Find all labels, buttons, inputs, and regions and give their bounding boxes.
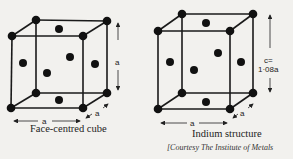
fcc-height-label: a — [115, 58, 120, 67]
corner-atom — [226, 27, 235, 36]
cube-edge — [158, 14, 182, 31]
indium-depth-label: a — [240, 109, 245, 118]
fcc-cube — [7, 16, 112, 113]
face-center-atom — [66, 53, 74, 61]
corner-atom — [32, 89, 41, 98]
cube-edge — [11, 36, 12, 108]
corner-atom — [103, 89, 112, 98]
face-center-atom — [19, 59, 27, 67]
corner-atom — [154, 27, 163, 36]
corner-atom — [249, 89, 258, 98]
cube-edge — [11, 93, 36, 108]
indium-height-label-c: c= — [264, 56, 273, 65]
indium-height-label-value: 1·08a — [258, 65, 279, 74]
face-center-atom — [55, 96, 63, 104]
corner-atom — [7, 104, 16, 113]
cube-edge — [12, 20, 36, 36]
fcc-dimensions — [14, 23, 118, 121]
corner-atom — [178, 89, 187, 98]
corner-atom — [178, 10, 187, 19]
indium-cube — [154, 10, 258, 114]
face-center-atom — [190, 66, 198, 74]
indium-width-label: a — [190, 119, 195, 128]
corner-atom — [8, 32, 17, 41]
corner-atom — [79, 104, 88, 113]
indium-caption: Indium structure — [192, 128, 262, 139]
corner-atom — [103, 17, 112, 26]
corner-atom — [226, 105, 235, 114]
face-center-atom — [43, 69, 51, 77]
face-center-atom — [202, 98, 210, 106]
fcc-depth-label: a — [95, 109, 100, 118]
face-center-atom — [237, 58, 245, 66]
fcc-caption: Face-centred cube — [30, 123, 107, 134]
corner-atom — [32, 16, 41, 25]
cube-edge — [36, 20, 107, 21]
face-center-atom — [214, 49, 222, 57]
face-center-atom — [166, 58, 174, 66]
cube-edge — [158, 93, 182, 109]
corner-atom — [79, 32, 88, 41]
corner-atom — [249, 10, 258, 19]
credit-line: [Courtesy The Institute of Metals — [167, 143, 273, 152]
face-center-atom — [202, 19, 210, 27]
face-center-atom — [91, 60, 99, 68]
face-center-atom — [55, 25, 63, 33]
corner-atom — [154, 105, 163, 114]
